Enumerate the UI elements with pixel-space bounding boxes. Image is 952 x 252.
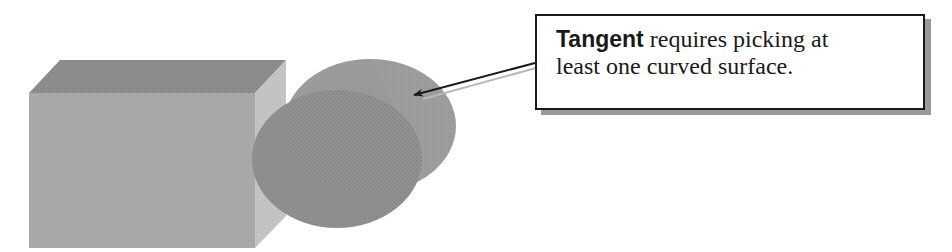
arrow-shadow-line <box>423 68 536 99</box>
callout-keyword: Tangent <box>556 26 644 52</box>
callout-text: Tangent requires picking at least one cu… <box>556 26 926 80</box>
callout-box: Tangent requires picking at least one cu… <box>535 14 925 110</box>
arrow-line <box>414 63 535 95</box>
callout-line1-text: requires picking at <box>644 26 829 52</box>
rectangular-block <box>29 60 286 248</box>
callout-line2-text: least one curved surface. <box>556 53 793 79</box>
